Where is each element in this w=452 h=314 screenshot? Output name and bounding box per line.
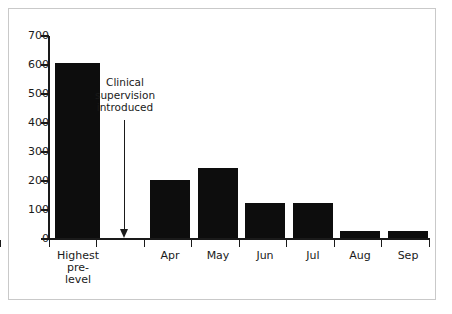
y-tick-label-0: 0	[15, 233, 49, 244]
annotation-line: supervision	[84, 89, 166, 102]
x-label-line: level	[42, 274, 114, 286]
bar-sep	[388, 231, 428, 238]
x-label-jun: Jun	[245, 250, 285, 262]
x-tick	[144, 240, 145, 247]
x-tick	[191, 240, 192, 247]
annotation-line: Clinical	[84, 76, 166, 89]
y-tick-300: 300	[0, 151, 49, 153]
y-tick-label-400: 400	[15, 117, 49, 128]
annotation-line: introduced	[84, 101, 166, 114]
x-tick	[381, 240, 382, 247]
annotation-clinical-supervision: Clinical supervision introduced	[84, 76, 166, 114]
x-tick	[334, 240, 335, 247]
bar-aug	[340, 231, 380, 238]
y-tick-label-600: 600	[15, 59, 49, 70]
y-tick-100: 100	[0, 209, 49, 211]
y-tick-200: 200	[0, 180, 49, 182]
x-label-sep: Sep	[388, 250, 428, 262]
x-tick	[286, 240, 287, 247]
x-label-highest-pre-level: Highest pre- level	[42, 250, 114, 286]
y-tick-400: 400	[0, 122, 49, 124]
y-tick-label-300: 300	[15, 146, 49, 157]
bar-may	[198, 168, 238, 238]
y-tick-700: 700	[0, 35, 49, 37]
y-tick-0: 0	[0, 238, 49, 240]
down-arrow-head-icon	[120, 229, 128, 238]
y-tick-label-200: 200	[15, 175, 49, 186]
bar-jun	[245, 203, 285, 238]
down-arrow-icon	[124, 120, 125, 232]
y-tick-label-700: 700	[15, 30, 49, 41]
x-label-may: May	[198, 250, 238, 262]
x-tick	[429, 240, 430, 247]
y-tick-label-500: 500	[15, 88, 49, 99]
plot-area: 700 600 500 400 300 200 100 0	[0, 0, 452, 314]
bar-apr	[150, 180, 190, 238]
y-tick-label-100: 100	[15, 204, 49, 215]
x-label-jul: Jul	[293, 250, 333, 262]
x-tick	[0, 240, 1, 247]
x-tick	[239, 240, 240, 247]
x-tick	[96, 240, 97, 247]
x-label-apr: Apr	[150, 250, 190, 262]
y-tick-600: 600	[0, 64, 49, 66]
x-label-aug: Aug	[340, 250, 380, 262]
figure-container: 700 600 500 400 300 200 100 0	[0, 0, 452, 314]
x-tick	[49, 240, 50, 247]
bar-jul	[293, 203, 333, 238]
y-tick-500: 500	[0, 93, 49, 95]
